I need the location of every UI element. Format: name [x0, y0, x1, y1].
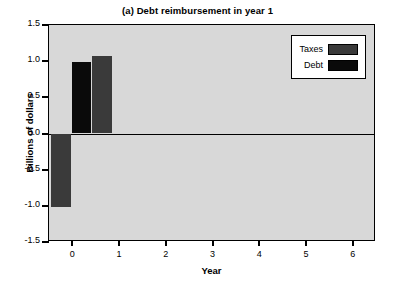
y-tick-label: 1.5: [27, 18, 40, 28]
y-tick-mark: [42, 241, 49, 243]
x-tick-label: 6: [350, 249, 355, 259]
y-tick-label: -1.5: [24, 235, 40, 245]
x-axis-label: Year: [49, 265, 374, 276]
y-tick-mark: [42, 60, 49, 62]
y-tick-mark: [42, 96, 49, 98]
y-tick-label: -0.5: [24, 163, 40, 173]
bar-taxes: [92, 56, 112, 133]
x-tick-label: 3: [210, 249, 215, 259]
x-tick-label: 2: [163, 249, 168, 259]
y-tick-mark: [42, 24, 49, 26]
y-tick-label: 1.0: [27, 54, 40, 64]
y-tick-mark: [42, 205, 49, 207]
legend-entry-debt: Debt: [299, 57, 358, 73]
legend-entry-taxes: Taxes: [299, 41, 358, 57]
legend-swatch: [328, 60, 358, 71]
y-tick-label: -1.0: [24, 199, 40, 209]
legend-swatch: [328, 44, 358, 55]
x-tick-mark: [165, 240, 167, 246]
x-tick-mark: [305, 240, 307, 246]
y-tick-label: 0.0: [27, 127, 40, 137]
x-tick-mark: [71, 240, 73, 246]
bar-taxes: [51, 134, 71, 208]
zero-baseline: [49, 134, 374, 136]
x-tick-mark: [118, 240, 120, 246]
legend-label: Debt: [304, 60, 323, 70]
y-tick-label: 0.5: [27, 90, 40, 100]
y-tick-mark: [42, 169, 49, 171]
x-tick-label: 1: [117, 249, 122, 259]
x-tick-label: 5: [303, 249, 308, 259]
chart-figure: (a) Debt reimbursement in year 1 Billion…: [0, 0, 395, 290]
bar-debt: [72, 62, 91, 134]
chart-title: (a) Debt reimbursement in year 1: [0, 5, 395, 16]
legend-label: Taxes: [299, 44, 323, 54]
x-tick-label: 4: [257, 249, 262, 259]
x-tick-mark: [258, 240, 260, 246]
chart-legend: TaxesDebt: [291, 35, 366, 79]
y-tick-mark: [42, 133, 49, 135]
x-tick-mark: [352, 240, 354, 246]
plot-area: Billions of dollars 1.51.00.50.0-0.5-1.0…: [48, 24, 375, 241]
x-tick-mark: [212, 240, 214, 246]
x-tick-label: 0: [70, 249, 75, 259]
